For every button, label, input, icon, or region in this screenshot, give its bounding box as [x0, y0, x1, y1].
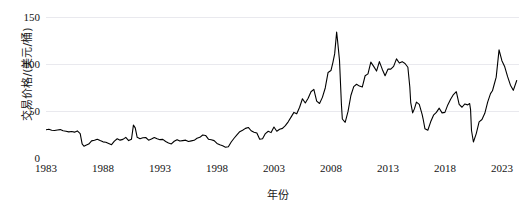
price-line — [46, 32, 517, 147]
x-axis-title-wrap: 年份 — [0, 186, 529, 202]
x-tick-label-1983: 1983 — [26, 163, 66, 174]
y-tick-label-50: 50 — [8, 106, 40, 117]
y-tick-label-100: 100 — [8, 59, 40, 70]
plot-svg — [46, 17, 519, 158]
x-tick-label-1998: 1998 — [197, 163, 237, 174]
x-tick-label-2008: 2008 — [311, 163, 351, 174]
x-tick-label-2003: 2003 — [254, 163, 294, 174]
x-tick-label-2018: 2018 — [425, 163, 465, 174]
gridlines — [46, 18, 519, 159]
x-tick-label-1988: 1988 — [83, 163, 123, 174]
y-tick-label-150: 150 — [8, 12, 40, 23]
y-axis-title: 交易价格/(美元/桶) — [18, 4, 34, 144]
oil-price-chart-figure: 交易价格/(美元/桶) 050100150 198319881993199820… — [0, 0, 529, 210]
x-tick-label-2023: 2023 — [482, 163, 522, 174]
x-tick-label-1993: 1993 — [140, 163, 180, 174]
x-axis-title: 年份 — [267, 186, 289, 202]
x-tick-label-2013: 2013 — [368, 163, 408, 174]
plot-area — [46, 17, 519, 158]
